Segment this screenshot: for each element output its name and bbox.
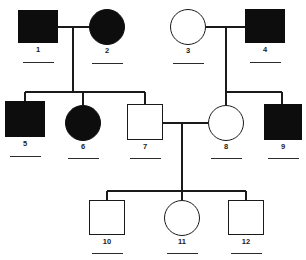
individual-2-answer-blank[interactable] bbox=[92, 63, 123, 64]
individual-6-symbol bbox=[65, 105, 101, 141]
individual-12-symbol bbox=[228, 200, 264, 235]
individual-7-answer-blank[interactable] bbox=[130, 158, 161, 159]
individual-1-answer-blank[interactable] bbox=[23, 62, 54, 63]
individual-4-symbol bbox=[245, 9, 285, 43]
individual-1-number: 1 bbox=[23, 45, 53, 54]
individual-10-answer-blank[interactable] bbox=[92, 253, 123, 254]
individual-10-number: 10 bbox=[92, 237, 122, 246]
individual-4-answer-blank[interactable] bbox=[250, 62, 281, 63]
individual-3-symbol bbox=[170, 9, 206, 45]
individual-6-number: 6 bbox=[68, 142, 98, 151]
individual-4-number: 4 bbox=[250, 45, 280, 54]
individual-9-symbol bbox=[264, 104, 302, 140]
individual-9-number: 9 bbox=[268, 142, 298, 151]
individual-12-answer-blank[interactable] bbox=[231, 253, 262, 254]
individual-5-number: 5 bbox=[10, 139, 40, 148]
individual-11-symbol bbox=[164, 200, 200, 236]
individual-7-number: 7 bbox=[130, 142, 160, 151]
individual-1-symbol bbox=[18, 10, 58, 43]
individual-11-number: 11 bbox=[167, 237, 197, 246]
individual-5-symbol bbox=[5, 101, 45, 137]
individual-10-symbol bbox=[89, 200, 125, 235]
individual-2-symbol bbox=[89, 9, 125, 45]
individual-9-answer-blank[interactable] bbox=[268, 158, 299, 159]
individual-6-answer-blank[interactable] bbox=[68, 158, 99, 159]
individual-7-symbol bbox=[127, 104, 163, 140]
individual-8-number: 8 bbox=[211, 142, 241, 151]
individual-5-answer-blank[interactable] bbox=[10, 156, 41, 157]
individual-2-number: 2 bbox=[92, 46, 122, 55]
individual-3-answer-blank[interactable] bbox=[173, 63, 204, 64]
individual-12-number: 12 bbox=[231, 237, 261, 246]
pedigree-chart: 1 2 3 4 5 6 7 8 9 10 11 12 bbox=[0, 0, 306, 260]
individual-8-answer-blank[interactable] bbox=[211, 158, 242, 159]
individual-3-number: 3 bbox=[173, 46, 203, 55]
individual-8-symbol bbox=[208, 105, 244, 141]
individual-11-answer-blank[interactable] bbox=[167, 253, 198, 254]
